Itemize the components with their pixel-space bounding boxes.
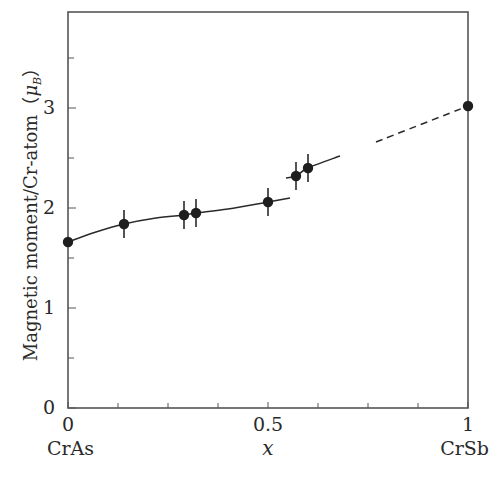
x-end-label-crsb: CrSb — [440, 437, 489, 459]
fit-curve — [68, 198, 290, 242]
y-axis-label-mu: μ — [20, 85, 41, 97]
data-point — [291, 171, 301, 181]
major-ticks — [68, 108, 468, 408]
y-axis-label: Magnetic moment/Cr-atom（μB） — [20, 59, 44, 361]
data-points — [63, 101, 473, 247]
y-tick-labels: 0123 — [43, 96, 55, 418]
y-axis-label-main: Magnetic moment/Cr-atom（ — [20, 97, 41, 362]
x-tick-label: 0.5 — [253, 413, 283, 435]
x-axis-label: x — [262, 436, 273, 460]
data-point — [191, 208, 201, 218]
y-axis-label-sub: B — [31, 77, 44, 86]
data-point — [303, 163, 313, 173]
data-point — [119, 219, 129, 229]
chart: 0123 00.51 CrAs CrSb x Magnetic moment/C… — [0, 0, 496, 478]
dashed-extrapolation-line — [376, 106, 468, 142]
y-tick-label: 1 — [43, 296, 55, 318]
data-point — [179, 210, 189, 220]
y-tick-label: 3 — [43, 96, 55, 118]
data-point — [463, 101, 473, 111]
x-tick-label: 1 — [462, 413, 474, 435]
x-end-label-cras: CrAs — [47, 437, 94, 459]
x-tick-label: 0 — [62, 413, 74, 435]
y-axis-label-close: ） — [20, 59, 41, 77]
y-tick-label: 2 — [43, 196, 55, 218]
y-tick-label: 0 — [43, 396, 55, 418]
minor-ticks — [68, 58, 418, 408]
data-point — [263, 197, 273, 207]
x-tick-labels: 00.51 — [62, 413, 474, 435]
data-point — [63, 237, 73, 247]
